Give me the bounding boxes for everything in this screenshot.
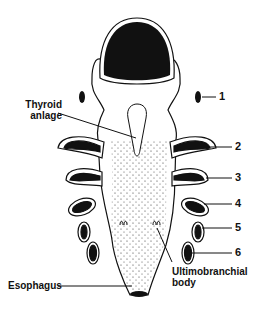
ultimobranchial-label: Ultimobranchial body [172, 266, 248, 288]
ultimo-label-line1: Ultimobranchial [172, 266, 248, 277]
pouch-number-1: 1 [219, 90, 225, 102]
thyroid-label-line1: Thyroid [22, 99, 62, 110]
pouch-number-3: 3 [235, 171, 241, 183]
esophagus-label: Esophagus [8, 280, 62, 291]
pharynx-diagram [0, 0, 255, 309]
pouch-number-5: 5 [235, 221, 241, 233]
head-dome [100, 18, 174, 84]
pouch-number-4: 4 [235, 197, 241, 209]
pouch-number-6: 6 [235, 246, 241, 258]
ultimo-label-line2: body [172, 277, 248, 288]
thyroid-label-line2: anlage [22, 110, 62, 121]
thyroid-anlage-label: Thyroid anlage [22, 99, 62, 121]
pouch-number-2: 2 [235, 140, 241, 152]
esophagus-opening [130, 291, 148, 297]
